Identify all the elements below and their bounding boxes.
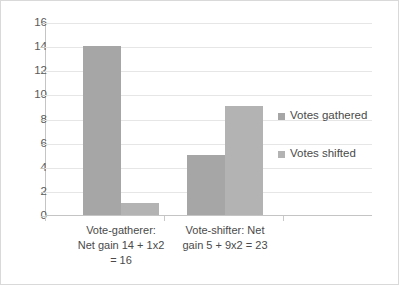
category-separator [164,216,165,221]
bar [187,155,225,215]
legend-label: Votes gathered [290,110,367,122]
x-axis-baseline [45,215,372,216]
legend-label: Votes shifted [290,148,356,160]
legend-swatch-icon [278,151,285,158]
category-label: Vote-shifter: Net gain 5 + 9x2 = 23 [165,223,285,253]
bar-chart: 0246810121416 Vote-gatherer: Net gain 14… [0,0,399,285]
gridline [45,23,372,24]
bar [83,46,121,215]
legend-item[interactable]: Votes shifted [278,147,390,161]
category-label: Vote-gatherer: Net gain 14 + 1x2 = 16 [61,223,181,268]
bar [121,203,159,215]
legend: Votes gatheredVotes shifted [278,109,390,185]
category-separator [283,216,284,221]
legend-swatch-icon [278,113,285,120]
bar [225,106,263,215]
legend-item[interactable]: Votes gathered [278,109,390,123]
category-separator [45,216,46,221]
